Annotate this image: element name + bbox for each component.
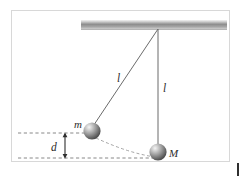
length-label-right: l [163,82,166,94]
ball-M-label: M [168,147,179,159]
drop-label: d [51,141,57,153]
pendulum-figure: m M l l d [0,0,248,182]
swing-arc [96,138,155,157]
ball-m [83,122,100,139]
ball-m-label: m [74,118,82,130]
pendulum-diagram: m M l l d [0,0,248,182]
corner-tick-mark [237,163,239,176]
length-label-left: l [117,72,120,84]
string-to-m [93,29,159,127]
ball-M [149,143,166,160]
support-beam [81,20,227,29]
